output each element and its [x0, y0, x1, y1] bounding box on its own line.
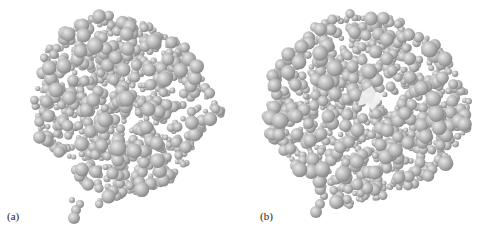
- panel-label-b: (b): [260, 210, 273, 222]
- panel-a: (a): [0, 0, 244, 240]
- panel-b: (b): [244, 0, 488, 240]
- molecule-render-a: [0, 0, 244, 240]
- panel-label-a: (a): [7, 210, 19, 222]
- molecule-render-b: [244, 0, 488, 240]
